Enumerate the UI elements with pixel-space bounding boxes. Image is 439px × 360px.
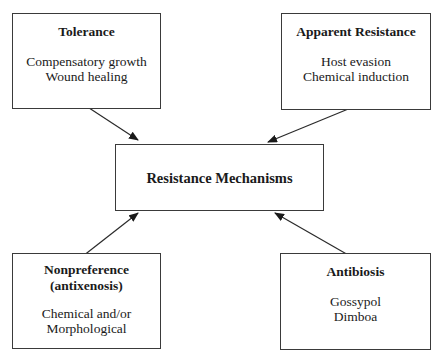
node-tolerance-line-2: Wound healing: [13, 69, 160, 84]
node-antibiosis-title: Antibiosis: [281, 264, 430, 280]
node-tolerance: Tolerance Compensatory growth Wound heal…: [12, 13, 161, 109]
node-tolerance-title: Tolerance: [13, 24, 160, 40]
arrow-antibiosis-to-center: [275, 213, 350, 256]
node-antibiosis-line-1: Gossypol: [281, 294, 430, 309]
arrow-tolerance-to-center: [83, 104, 138, 140]
node-tolerance-line-1: Compensatory growth: [13, 54, 160, 69]
node-nonpreference-subtitle: (antixenosis): [13, 278, 160, 294]
node-antibiosis-line-2: Dimboa: [281, 309, 430, 324]
node-nonpreference-line-2: Morphological: [13, 321, 160, 336]
node-apparent-resistance: Apparent Resistance Host evasion Chemica…: [281, 13, 431, 110]
node-nonpreference: Nonpreference (antixenosis) Chemical and…: [12, 253, 161, 349]
node-apparent-resistance-line-2: Chemical induction: [282, 69, 430, 84]
node-apparent-resistance-title: Apparent Resistance: [282, 24, 430, 40]
arrow-apparent-resistance-to-center: [268, 105, 358, 142]
node-nonpreference-line-1: Chemical and/or: [13, 306, 160, 321]
node-center-title: Resistance Mechanisms: [146, 170, 292, 186]
node-center: Resistance Mechanisms: [115, 144, 324, 211]
node-antibiosis: Antibiosis Gossypol Dimboa: [280, 253, 431, 350]
arrow-nonpreference-to-center: [83, 213, 138, 256]
node-nonpreference-title: Nonpreference: [13, 262, 160, 278]
node-apparent-resistance-line-1: Host evasion: [282, 54, 430, 69]
